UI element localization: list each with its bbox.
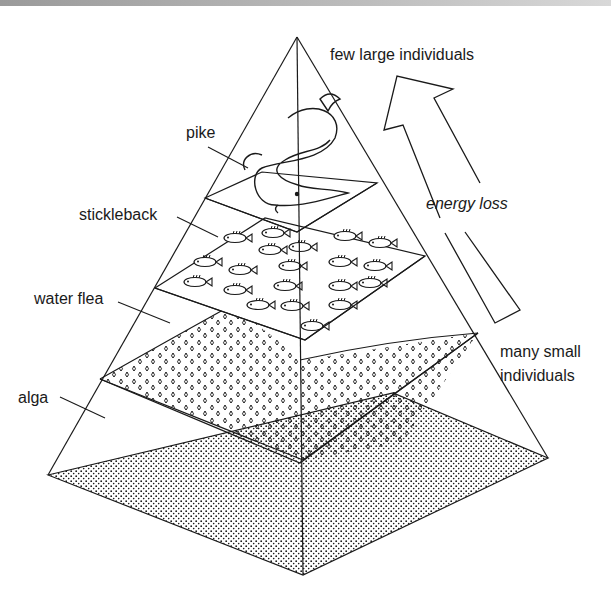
label-many-small: many small [500,343,581,361]
label-stickleback: stickleback [79,206,157,224]
food-pyramid-diagram: few large individuals pike stickleback w… [0,0,611,589]
label-alga: alga [18,389,48,407]
label-energy-loss: energy loss [426,195,508,213]
label-individuals: individuals [500,367,575,385]
pike-layer [205,172,377,232]
label-few-large-individuals: few large individuals [330,46,474,64]
pike-fish [244,94,348,213]
label-water-flea: water flea [34,290,103,308]
label-pike: pike [186,124,215,142]
